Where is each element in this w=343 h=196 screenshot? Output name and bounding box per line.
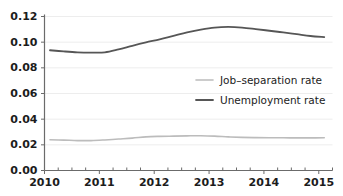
y-tick-label: 0.04	[10, 113, 37, 126]
x-tick-label: 2014	[249, 176, 280, 189]
y-tick-label: 0.12	[10, 10, 37, 23]
y-tick-label: 0.06	[10, 87, 37, 100]
x-tick-label: 2012	[139, 176, 170, 189]
legend-label-0: Job–separation rate	[219, 74, 322, 86]
y-tick-label-group: 0.000.020.040.060.080.100.12	[10, 10, 37, 177]
y-tick-label: 0.02	[10, 138, 37, 151]
legend-label-1: Unemployment rate	[220, 94, 325, 106]
chart-canvas: 0.000.020.040.060.080.100.12 20102011201…	[0, 0, 343, 196]
chart-legend: Job–separation rateUnemployment rate	[196, 74, 325, 106]
y-tick-label: 0.08	[10, 61, 37, 74]
series-line-1	[50, 27, 324, 53]
x-tick-label: 2013	[194, 176, 225, 189]
series-line-0	[50, 136, 324, 141]
x-tick-label: 2015	[303, 176, 334, 189]
x-tick-label: 2011	[84, 176, 115, 189]
axis-group	[45, 15, 333, 171]
y-tick-label: 0.10	[10, 36, 37, 49]
line-chart: 0.000.020.040.060.080.100.12 20102011201…	[0, 0, 343, 196]
x-tick-label-group: 201020112012201320142015	[29, 176, 334, 189]
x-tick-label: 2010	[29, 176, 60, 189]
